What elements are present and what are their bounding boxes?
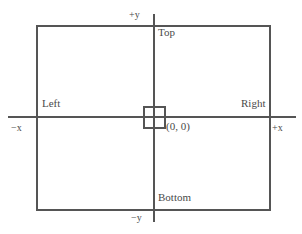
edge-label-right: Right: [241, 98, 265, 109]
diagram-canvas: +y −y −x +x Top Bottom Left Right (0, 0): [0, 0, 302, 234]
edge-label-top: Top: [158, 27, 175, 38]
edge-label-bottom: Bottom: [158, 192, 191, 203]
coordinate-diagram-graphic: [0, 0, 302, 234]
axis-label-positive-x: +x: [272, 122, 283, 133]
axis-label-negative-y: −y: [131, 212, 142, 223]
axis-label-positive-y: +y: [129, 9, 140, 20]
axis-label-negative-x: −x: [11, 122, 22, 133]
edge-label-left: Left: [42, 98, 60, 109]
origin-coordinate-label: (0, 0): [166, 121, 190, 132]
